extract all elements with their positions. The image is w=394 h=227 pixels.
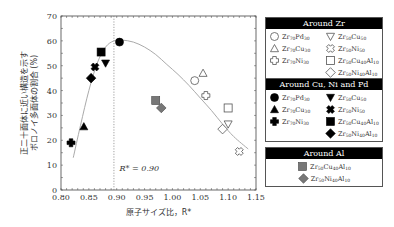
cross-icon-shape: [271, 57, 279, 65]
y-tick-label: 10: [47, 161, 57, 170]
point-zr-Zr70Pd30: [191, 77, 199, 85]
point-zr-Zr70Cu30: [199, 69, 207, 76]
point-zr-Zr70Ni30: [202, 92, 210, 100]
legend-item: Zr50Cu40Al10: [325, 55, 379, 66]
circle-icon-shape: [271, 94, 279, 102]
point-zr-Zr50Ni50: [234, 146, 245, 157]
legend-item: Zr50Cu40Al10: [325, 116, 379, 127]
circle-icon: [269, 31, 280, 42]
square-icon-shape: [327, 118, 335, 126]
data-points: [67, 38, 245, 157]
y-tick-label: 30: [47, 111, 57, 120]
legend-item: Zr50Cu50: [325, 31, 379, 42]
diamond-icon: [325, 67, 336, 78]
legend-item: Zr70Pd30: [269, 31, 323, 42]
triangle-down-icon: [325, 92, 336, 103]
legend-label: Zr50Cu40Al10: [338, 118, 379, 126]
x-icon-shape: [325, 43, 336, 54]
legend-header: Around Cu, Ni and Pd: [266, 79, 382, 90]
x-icon: [325, 104, 336, 115]
circle-icon-shape: [271, 33, 279, 41]
legend-label: Zr70Ni30: [282, 118, 309, 126]
legend-item: Zr50Ni50: [325, 104, 379, 115]
y-tick-label: 60: [47, 37, 57, 46]
square-icon: [325, 116, 336, 127]
legend-label: Zr50Ni50: [338, 106, 365, 114]
cross-icon: [269, 55, 280, 66]
legend-label: Zr70Cu30: [282, 45, 310, 53]
x-shape: [325, 104, 336, 115]
x-tick-label: 1.15: [247, 193, 265, 202]
legend-item: Zr50Ni40Al10: [325, 67, 379, 78]
legend-item: Zr50Cu50: [325, 92, 379, 103]
x-tick-label: 1.00: [164, 193, 182, 202]
cross-icon: [269, 116, 280, 127]
legend-item: Zr70Ni30: [269, 55, 323, 66]
legend-item: Zr50Cu40Al10: [297, 161, 351, 172]
x-tick-label: 0.90: [108, 193, 126, 202]
legend-label: Zr70Pd30: [282, 33, 310, 41]
legend-around-cu-ni-pd: Around Cu, Ni and PdZr70Pd30Zr50Cu50Zr70…: [265, 78, 383, 142]
point-al-Zr50Cu40Al10: [152, 97, 160, 105]
annotation-rstar: R* = 0.90: [119, 164, 160, 173]
triangle-down-icon-shape: [327, 94, 335, 101]
cross-icon-shape: [271, 118, 279, 126]
x-icon-shape: [325, 104, 336, 115]
y-tick-label: 70: [47, 12, 57, 21]
diamond-icon: [298, 173, 309, 184]
point-zr-Zr50Cu40Al10: [224, 104, 232, 112]
triangle-icon-shape: [271, 45, 279, 52]
triangle-icon-shape: [271, 106, 279, 113]
legend-around-zr: Around ZrZr70Pd30Zr50Cu50Zr70Cu30Zr50Ni5…: [265, 17, 383, 81]
legend-body: Zr70Pd30Zr50Cu50Zr70Cu30Zr50Ni50Zr70Ni30…: [266, 90, 382, 141]
legend-body: Zr70Pd30Zr50Cu50Zr70Cu30Zr50Ni50Zr70Ni30…: [266, 29, 382, 80]
legend-label: Zr50Ni50: [338, 45, 365, 53]
square-icon: [297, 161, 308, 172]
legend-label: Zr50Ni40Al10: [338, 130, 377, 138]
triangle-icon: [269, 43, 280, 54]
legend-item: Zr50Ni40Al10: [298, 173, 350, 184]
diamond-icon-shape: [326, 68, 336, 78]
point-zr-Zr50Ni40Al10: [218, 124, 228, 134]
x-shape: [325, 43, 336, 54]
x-shape: [234, 146, 245, 157]
y-tick-label: 0: [52, 186, 57, 195]
legend-item: Zr70Pd30: [269, 92, 323, 103]
legend-body: Zr50Cu40Al10Zr50Ni40Al10: [266, 159, 382, 186]
point-cu-Zr50Cu50: [102, 60, 110, 67]
point-cu-Zr70Ni30: [67, 139, 75, 147]
legend-label: Zr50Ni40Al10: [338, 69, 377, 77]
legend-item: Zr70Cu30: [269, 104, 323, 115]
point-cu-Zr70Pd30: [116, 38, 124, 46]
legend-label: Zr70Cu30: [282, 106, 310, 114]
legend-item: Zr70Cu30: [269, 43, 323, 54]
y-axis-title-line1: 正二十面体に近い構造を示す: [19, 51, 29, 155]
y-axis-title-line2: ボロノイ多面体の割合 (%): [29, 55, 39, 151]
x-axis-title: 原子サイズ比，R*: [126, 207, 192, 217]
legend-label: Zr70Ni30: [282, 57, 309, 65]
fit-curve: [73, 40, 248, 158]
legend-around-al: Around AlZr50Cu40Al10Zr50Ni40Al10: [265, 147, 383, 187]
circle-icon: [269, 92, 280, 103]
square-icon: [325, 55, 336, 66]
legend-label: Zr70Pd30: [282, 94, 310, 102]
square-icon-shape: [299, 163, 307, 171]
point-cu-Zr50Cu40Al10: [97, 48, 105, 56]
legend-item: Zr70Ni30: [269, 116, 323, 127]
legend-label: Zr50Cu40Al10: [338, 57, 379, 65]
legend-label: Zr50Cu50: [338, 94, 366, 102]
legend-item: Zr50Ni50: [325, 43, 379, 54]
fit-curve-layer: [73, 40, 248, 158]
legend-header: Around Zr: [266, 18, 382, 29]
y-tick-label: 40: [47, 87, 57, 96]
x-tick-label: 0.85: [80, 193, 98, 202]
triangle-icon: [269, 104, 280, 115]
legend-label: Zr50Ni40Al10: [311, 175, 350, 183]
square-icon-shape: [327, 57, 335, 65]
point-cu-Zr50Ni40Al10: [86, 73, 96, 83]
x-tick-label: 1.05: [191, 193, 209, 202]
y-tick-label: 50: [47, 62, 57, 71]
legend-item: Zr50Ni40Al10: [325, 128, 379, 139]
triangle-down-icon-shape: [327, 33, 335, 40]
diamond-icon: [325, 128, 336, 139]
